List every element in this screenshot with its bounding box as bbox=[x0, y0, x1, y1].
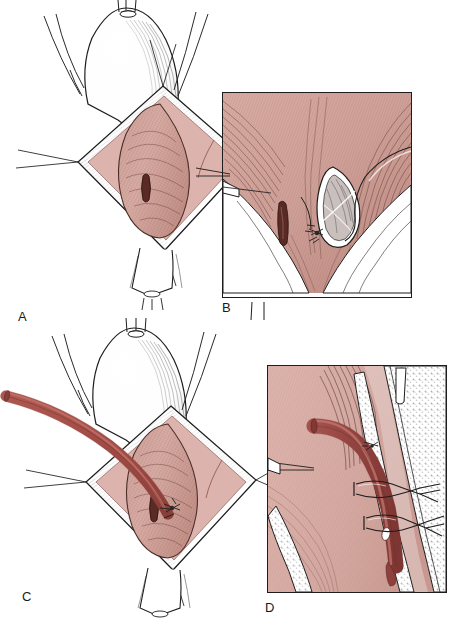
slit-orifice-a bbox=[142, 174, 151, 202]
panel-b-detail-ductotomy bbox=[222, 92, 412, 298]
lateral-folds-left-a bbox=[44, 14, 84, 96]
panel-c-illustration bbox=[0, 318, 270, 618]
lateral-folds-right-a bbox=[174, 12, 208, 96]
panel-b-approach-suture bbox=[196, 150, 236, 194]
approach-suture-svg bbox=[196, 150, 236, 190]
panel-label-c: C bbox=[22, 590, 32, 603]
duct-open-flap-d bbox=[396, 368, 406, 404]
base-structure-c bbox=[140, 568, 181, 616]
base-opening-a bbox=[144, 291, 160, 297]
panel-b-illustration bbox=[223, 93, 411, 297]
panel-label-b: B bbox=[222, 301, 231, 314]
panel-d-detail-fixation bbox=[267, 365, 447, 593]
lateral-folds-right-c bbox=[182, 332, 216, 416]
base-structure-a bbox=[132, 248, 173, 296]
surgical-figure-plate: A bbox=[0, 0, 457, 626]
base-opening-c bbox=[152, 611, 168, 617]
panel-d-illustration bbox=[268, 366, 446, 592]
lateral-folds-left-c bbox=[52, 334, 92, 416]
panel-label-d: D bbox=[265, 601, 275, 614]
base-lines-a bbox=[142, 298, 163, 310]
panel-c-overview-catheter bbox=[0, 318, 270, 618]
